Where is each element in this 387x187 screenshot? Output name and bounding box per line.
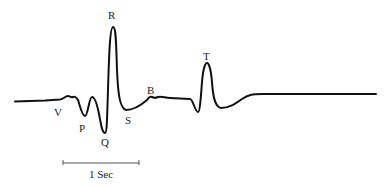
- scale-bar-label: 1 Sec: [89, 168, 113, 180]
- scale-bar: [63, 160, 139, 165]
- label-s: S: [125, 114, 131, 126]
- label-t: T: [203, 50, 210, 62]
- label-p: P: [79, 122, 85, 134]
- waveform-trace: [15, 27, 376, 133]
- waveform-diagram: V P Q R S B T 1 Sec: [0, 0, 387, 187]
- label-b: B: [147, 84, 154, 96]
- label-r: R: [108, 9, 116, 21]
- label-q: Q: [101, 136, 109, 148]
- label-v: V: [54, 106, 62, 118]
